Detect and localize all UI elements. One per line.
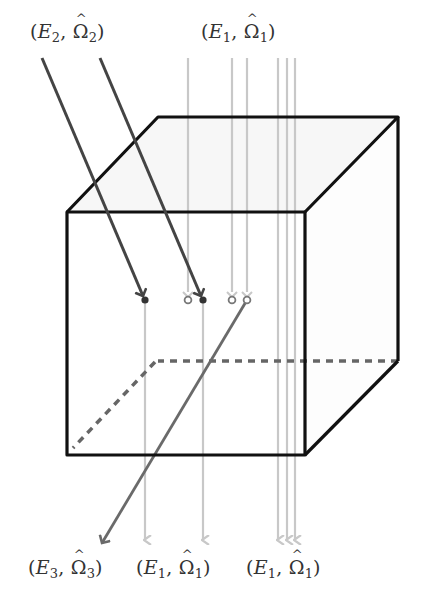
diagram-canvas: (E2, Ω2) (E1, Ω1) (E3, Ω3) (E1, Ω1) (E1,… xyxy=(0,0,428,593)
primary-beam-arrowheads xyxy=(183,292,252,297)
scatter-point xyxy=(229,297,236,304)
label-outgoing-e1-right: (E1, Ω1) xyxy=(246,556,321,581)
label-outgoing-e1-left: (E1, Ω1) xyxy=(136,556,211,581)
label-incoming-e2: (E2, Ω2) xyxy=(30,20,105,45)
absorption-point xyxy=(199,296,206,303)
scatter-point xyxy=(244,297,251,304)
absorption-point xyxy=(141,296,148,303)
label-incoming-e1: (E1, Ω1) xyxy=(201,20,276,45)
scattered-beam-e3 xyxy=(102,300,247,543)
cube-diagram xyxy=(0,0,428,593)
label-outgoing-e3: (E3, Ω3) xyxy=(28,556,103,581)
scatter-point xyxy=(185,297,192,304)
interaction-points xyxy=(141,296,250,303)
